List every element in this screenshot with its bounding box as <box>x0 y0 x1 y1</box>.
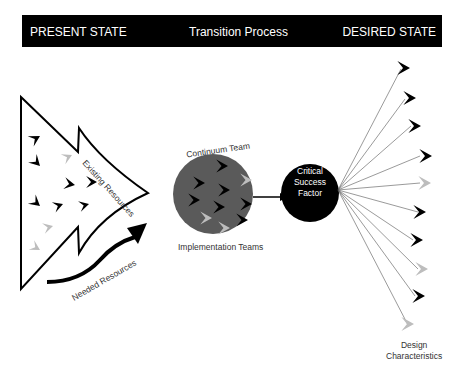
diagram-canvas <box>0 0 454 371</box>
critical-success-factor-label: Critical Success Factor <box>280 166 340 199</box>
implementation-teams-label: Implementation Teams <box>178 242 263 252</box>
needed-resources-arrowhead <box>127 223 147 244</box>
design-characteristics-label: Design Characteristics <box>386 340 442 362</box>
design-characteristic-arrows <box>397 61 432 331</box>
design-characteristic-rays <box>338 69 420 325</box>
